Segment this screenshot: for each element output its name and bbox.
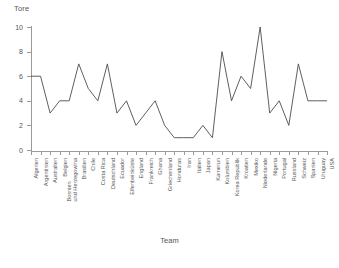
x-axis-tick-label: Argentinien — [43, 158, 49, 186]
x-axis-tick — [60, 151, 61, 155]
x-axis-tick — [98, 151, 99, 155]
x-axis-tick — [203, 151, 204, 155]
x-axis-tick — [88, 151, 89, 155]
plot-area — [31, 27, 327, 150]
x-axis-tick-label: Spanien — [310, 158, 316, 179]
x-axis-tick — [174, 151, 175, 155]
data-line-tore — [31, 27, 327, 138]
y-axis-tick-label: 8 — [7, 48, 23, 55]
y-axis-tick — [27, 150, 31, 151]
x-axis-tick-label: Costa Rica — [100, 158, 106, 185]
y-axis-tick — [27, 76, 31, 77]
line-series-svg — [31, 27, 327, 150]
x-axis-tick — [308, 151, 309, 155]
x-axis-tick-label: Kolumbien — [224, 158, 230, 184]
x-axis-tick-label: Honduras — [176, 158, 182, 182]
x-axis-tick-label: Niederlande — [262, 158, 268, 188]
x-axis-tick — [69, 151, 70, 155]
x-axis-tick — [318, 151, 319, 155]
x-axis-tick — [193, 151, 194, 155]
x-axis-tick — [50, 151, 51, 155]
x-axis-tick-label: Griechenland — [167, 158, 173, 191]
x-axis-tick-label: Australien — [52, 158, 58, 183]
x-axis-tick-label: Italien — [196, 158, 202, 173]
y-axis-tick-label: 2 — [7, 122, 23, 129]
x-axis-tick-label: Ghana — [157, 158, 163, 175]
x-axis-tick-label: England — [138, 158, 144, 179]
x-axis-tick — [279, 151, 280, 155]
x-axis-tick-label: Uruguay — [320, 158, 326, 179]
x-axis-tick — [155, 151, 156, 155]
x-axis-tick — [117, 151, 118, 155]
x-axis-tick — [146, 151, 147, 155]
x-axis-tick — [327, 151, 328, 155]
x-axis-tick-label: Russland — [291, 158, 297, 181]
x-axis-tick-label: Bosnienund Herzegowina — [66, 158, 78, 202]
x-axis-tick-label: Schweiz — [301, 158, 307, 179]
y-axis-tick — [27, 52, 31, 53]
x-axis-tick-label: Japan — [205, 158, 211, 173]
y-axis-title: Tore — [14, 4, 29, 13]
x-axis-tick — [251, 151, 252, 155]
y-axis-tick — [27, 101, 31, 102]
x-axis-tick — [270, 151, 271, 155]
x-axis-tick-label: Frankreich — [148, 158, 154, 184]
x-axis-tick — [79, 151, 80, 155]
x-axis-tick-label: USA — [329, 158, 335, 170]
x-axis-tick — [241, 151, 242, 155]
x-axis-title: Team — [0, 236, 339, 245]
y-axis-tick-label: 0 — [7, 147, 23, 154]
x-axis-tick — [222, 151, 223, 155]
x-axis-tick-label: Deutschland — [110, 158, 116, 189]
x-axis-tick-label: Brasilien — [81, 158, 87, 179]
y-axis-tick — [27, 27, 31, 28]
x-axis-tick — [127, 151, 128, 155]
x-axis-tick — [298, 151, 299, 155]
x-axis-tick-label: Kamerun — [215, 158, 221, 181]
x-axis-tick-label: Mexiko — [253, 158, 259, 176]
x-axis-tick — [136, 151, 137, 155]
x-axis-tick — [260, 151, 261, 155]
x-axis-tick-label: Kroatien — [243, 158, 249, 179]
chart-figure: Tore 0246810 AlgerienArgentinienAustrali… — [0, 0, 339, 268]
x-axis-line — [31, 151, 327, 152]
y-axis-tick-label: 10 — [7, 24, 23, 31]
x-axis-tick-label: Iran — [186, 158, 192, 168]
x-axis-tick-label: Korea Republik — [234, 158, 240, 196]
x-axis-tick — [232, 151, 233, 155]
x-axis-tick-label: Nigeria — [272, 158, 278, 176]
x-axis-tick — [184, 151, 185, 155]
x-axis-tick — [212, 151, 213, 155]
x-axis-tick-label: Algerien — [33, 158, 39, 179]
x-axis-tick — [31, 151, 32, 155]
y-axis-tick-label: 6 — [7, 73, 23, 80]
x-axis-tick-label: Elfenbeinküste — [129, 158, 135, 195]
x-axis-tick-label: Ecuador — [119, 158, 125, 179]
y-axis-tick — [27, 125, 31, 126]
x-axis-tick — [289, 151, 290, 155]
x-axis-tick — [41, 151, 42, 155]
x-axis-tick — [165, 151, 166, 155]
x-axis-tick — [107, 151, 108, 155]
y-axis-tick-label: 4 — [7, 97, 23, 104]
x-axis-tick-label: Chile — [90, 158, 96, 171]
x-axis-tick-label: Portugal — [281, 158, 287, 179]
